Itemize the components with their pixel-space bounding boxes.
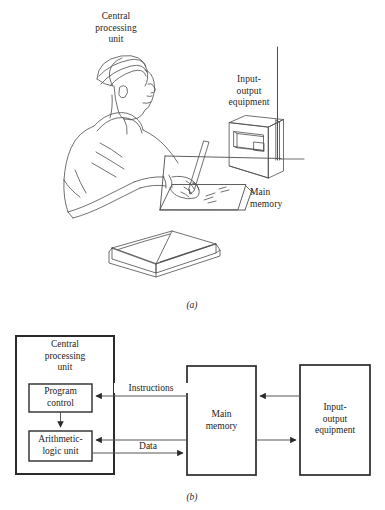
- panel-a-illustration: Central processing unit Input- output eq…: [0, 0, 385, 300]
- block-io-equipment-outline: [300, 365, 370, 475]
- block-program-control-outline: [29, 384, 92, 412]
- figure-caption-a: (a): [172, 300, 212, 310]
- illustration-line-art: [0, 0, 385, 300]
- flow-label-data: Data: [124, 441, 172, 451]
- illustration-label-io: Input- output equipment: [220, 74, 278, 109]
- paper-outline: [160, 185, 246, 210]
- illustration-label-cpu: Central processing unit: [88, 11, 144, 46]
- desk-edge-far: [165, 156, 281, 159]
- flow-label-instructions: Instructions: [114, 383, 188, 393]
- panel-b-block-diagram: Central processing unit Program control …: [0, 310, 385, 510]
- person-figure: [64, 56, 199, 218]
- block-diagram-lines: [0, 310, 385, 510]
- illustration-label-main-memory: Main memory: [250, 187, 298, 210]
- block-alu-outline: [29, 431, 92, 461]
- figure-page: Central processing unit Input- output eq…: [0, 0, 385, 510]
- block-main-memory-outline: [187, 366, 256, 475]
- paper-sheet: [162, 185, 245, 207]
- open-book: [109, 231, 220, 277]
- figure-caption-b: (b): [172, 492, 212, 502]
